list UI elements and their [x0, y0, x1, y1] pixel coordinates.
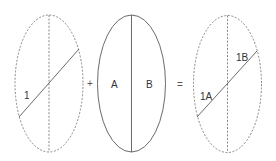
- equals-operator: =: [177, 79, 183, 90]
- label-b: B: [146, 79, 153, 90]
- middle-ellipse-group: A B: [98, 15, 166, 152]
- right-ellipse-group: 1B 1A: [194, 16, 262, 153]
- label-1b: 1B: [236, 52, 249, 63]
- label-1: 1: [24, 90, 30, 101]
- label-a: A: [111, 79, 118, 90]
- left-ellipse-group: 1: [15, 15, 83, 152]
- plus-operator: +: [87, 78, 93, 89]
- diagram-canvas: 1 + A B = 1B 1A: [0, 0, 276, 161]
- label-1a: 1A: [200, 91, 213, 102]
